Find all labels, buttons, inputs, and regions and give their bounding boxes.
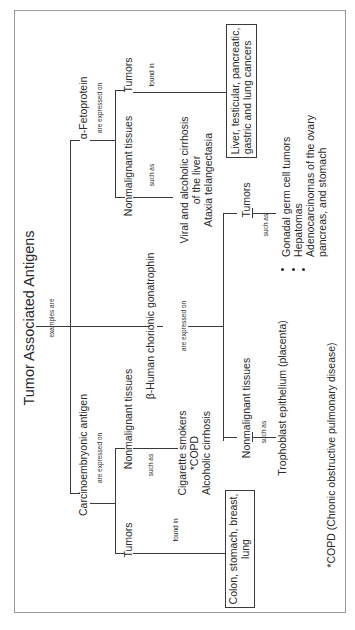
afp-stub (70, 140, 80, 141)
cea-title: Carcinoembryonic antigen (77, 394, 89, 516)
afp-branch (115, 90, 116, 198)
box-line: gastric and lung cancers (242, 28, 254, 155)
afp-tumors-label: Tumors (122, 57, 134, 92)
cea-nonmal-items: Cigarette smokers *COPD Alcoholic cirrho… (176, 410, 212, 495)
cea-link: are expressed on (96, 433, 103, 483)
afp-nonmal-link: such as (148, 164, 155, 186)
list-item: Alcoholic cirrhosis (200, 410, 212, 495)
bhcg-nonmal-items: Trophoblast epithelium (placenta) (276, 320, 288, 475)
list-item: Adenocarcinomas of the ovary (304, 115, 316, 257)
list-item: Trophoblast epithelium (placenta) (276, 320, 288, 475)
list-item: Hepatomas (292, 115, 304, 257)
bhcg-branch (223, 213, 224, 441)
main-trunk (70, 140, 71, 493)
bhcg-connector-b (157, 326, 163, 327)
afp-title: α-Fetoprotein (77, 77, 89, 140)
list-item: Viral and alcoholic cirrhosis (178, 116, 190, 243)
bhcg-connector-c (188, 326, 223, 327)
bhcg-tumors-stub (223, 213, 237, 214)
cea-tumors-connector (133, 553, 225, 554)
afp-tumors-box-text: Liver, testicular, pancreatic, gastric a… (230, 28, 253, 155)
cea-tumors-box-text: Colon, stomach, breast, lung (228, 494, 251, 605)
bhcg-tumors-link: such as (262, 214, 269, 236)
cea-nonmal-connector (133, 448, 178, 449)
afp-connector (90, 140, 115, 141)
footnote: *COPD (Chronic obstructive pulmonary dis… (325, 342, 337, 567)
bhcg-tumors-connector (252, 213, 276, 214)
bullet-icon (302, 268, 305, 271)
box-line: Liver, testicular, pancreatic, (230, 28, 242, 155)
bhcg-connector-a (70, 326, 150, 327)
list-item: of the liver (190, 116, 202, 243)
afp-nonmal-items: Viral and alcoholic cirrhosis of the liv… (178, 116, 214, 243)
list-item: Cigarette smokers (176, 410, 188, 495)
bhcg-tumors-label: Tumors (240, 182, 252, 217)
root-link-label: examples are (48, 298, 55, 337)
bullet-icon (281, 268, 284, 271)
afp-tumors-link: found in (148, 63, 155, 86)
bhcg-link: are expressed on (180, 301, 187, 351)
diagram-title: Tumor Associated Antigens (21, 230, 38, 405)
cea-branch (115, 448, 116, 553)
list-item: *COPD (188, 410, 200, 495)
list-item: Gonadal germ cell tumors (280, 115, 292, 257)
cea-nonmal-link: such as (147, 454, 154, 476)
box-line: Colon, stomach, breast, (228, 494, 240, 605)
bhcg-nonmal-link: such as (260, 421, 267, 443)
afp-nonmal-connector (133, 197, 173, 198)
list-item: Ataxia telangectasia (202, 116, 214, 243)
afp-nonmal-label: Nonmalignant tissues (122, 116, 134, 216)
afp-link: are expressed on (96, 83, 103, 133)
bullet-icon (292, 268, 295, 271)
list-item: pancreas, and stomach (316, 115, 328, 257)
bhcg-nonmal-label: Nonmalignant tissues (240, 358, 252, 458)
bhcg-nonmal-connector (252, 437, 276, 438)
bhcg-nonmal-stub (223, 437, 237, 438)
root-connector (36, 326, 71, 327)
cea-connector (90, 503, 115, 504)
cea-nonmal-label: Nonmalignant tissues (122, 369, 134, 469)
cea-tumors-link: found in (172, 518, 179, 541)
bhcg-tumors-items: Gonadal germ cell tumors Hepatomas Adeno… (280, 115, 328, 257)
afp-tumors-connector (133, 92, 226, 93)
box-line: lung (240, 494, 252, 605)
